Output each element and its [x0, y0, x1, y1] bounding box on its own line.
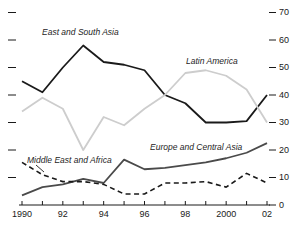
y-tick-label: 0: [279, 201, 284, 210]
x-tick-label: 02: [262, 210, 272, 219]
series-label-1: Latin America: [186, 57, 238, 66]
x-tick-label: 92: [58, 210, 68, 219]
y-tick-label: 60: [279, 36, 289, 45]
series-line-1: [22, 70, 267, 150]
x-tick-label: 94: [99, 210, 109, 219]
y-tick-label: 30: [279, 118, 289, 127]
x-tick-label: 96: [139, 210, 149, 219]
series-label-0: East and South Asia: [42, 28, 119, 37]
right-axis-ticks: [269, 13, 276, 206]
y-tick-label: 40: [279, 91, 289, 100]
left-axis-ticks: [8, 13, 16, 178]
line-chart: 010203040506070 199092949698200002 East …: [0, 0, 299, 231]
x-axis: [19, 201, 270, 205]
x-tick-label: 98: [180, 210, 190, 219]
y-tick-label: 70: [279, 8, 289, 17]
series-label-3: Middle East and Africa: [27, 156, 112, 165]
x-tick-label: 2000: [216, 210, 236, 219]
series-label-2: Europe and Central Asia: [150, 143, 242, 152]
y-tick-label: 20: [279, 146, 289, 155]
y-tick-label: 10: [279, 173, 289, 182]
y-tick-label: 50: [279, 63, 289, 72]
series-line-3: [22, 162, 267, 194]
x-tick-label: 1990: [12, 210, 32, 219]
data-series-group: [22, 46, 267, 196]
